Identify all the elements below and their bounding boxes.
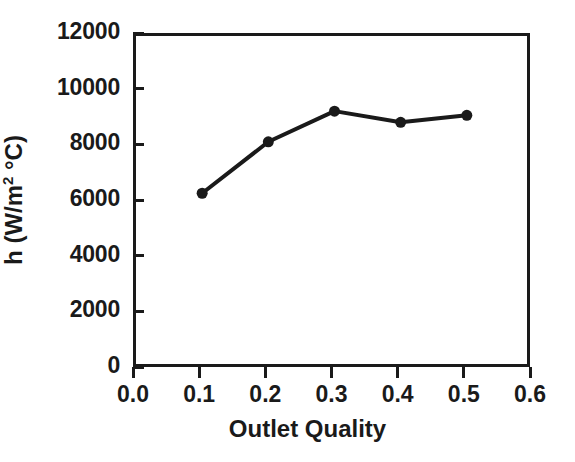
data-point-marker — [263, 136, 274, 147]
y-axis-tick-label-text: 10000 — [57, 74, 120, 101]
x-axis-tick-label-text: 0.0 — [117, 381, 149, 408]
y-axis-tick — [133, 32, 144, 35]
x-axis-tick — [198, 367, 201, 378]
x-axis-tick-label-text: 0.1 — [183, 381, 215, 408]
x-axis-tick-label-text: 0.5 — [448, 381, 480, 408]
y-axis-tick — [133, 254, 144, 257]
data-point-marker — [197, 188, 208, 199]
y-axis-label-suffix: °C) — [0, 135, 27, 177]
y-axis-label: h (W/m2 °C) — [0, 135, 28, 265]
x-axis-tick — [462, 367, 465, 378]
plot-area — [136, 36, 527, 364]
y-axis-tick — [133, 366, 144, 369]
data-point-marker — [461, 110, 472, 121]
x-axis-tick — [396, 367, 399, 378]
y-axis-tick-label-text: 0 — [107, 352, 120, 379]
x-axis-tick-label-text: 0.2 — [249, 381, 281, 408]
x-axis-label-text: Outlet Quality — [229, 415, 386, 443]
data-point-marker — [329, 106, 340, 117]
x-axis-tick-label-text: 0.6 — [514, 381, 546, 408]
y-axis-tick — [133, 199, 144, 202]
y-axis-label-superscript: 2 — [0, 177, 16, 185]
x-axis-label: Outlet Quality — [0, 415, 575, 443]
y-axis-tick-label-text: 6000 — [70, 185, 120, 212]
y-axis-tick-label-text: 4000 — [70, 241, 120, 268]
series-canvas — [136, 36, 533, 370]
x-axis-tick — [132, 367, 135, 378]
y-axis-tick-label-text: 8000 — [70, 129, 120, 156]
x-axis-tick — [264, 367, 267, 378]
chart-figure: 020004000600080001000012000 0.00.10.20.3… — [0, 0, 575, 462]
y-axis-tick — [133, 87, 144, 90]
y-axis-label-prefix: h (W/m — [0, 185, 27, 265]
x-axis-tick-label-text: 0.3 — [316, 381, 348, 408]
x-axis-tick — [330, 367, 333, 378]
y-axis-tick — [133, 143, 144, 146]
x-axis-tick-label-text: 0.4 — [382, 381, 414, 408]
x-axis-tick — [529, 367, 532, 378]
y-axis-tick-label-text: 2000 — [70, 296, 120, 323]
y-axis-tick — [133, 310, 144, 313]
data-line — [202, 111, 467, 193]
data-point-marker — [395, 117, 406, 128]
plot-frame — [133, 33, 530, 367]
y-axis-tick-label-text: 12000 — [57, 18, 120, 45]
